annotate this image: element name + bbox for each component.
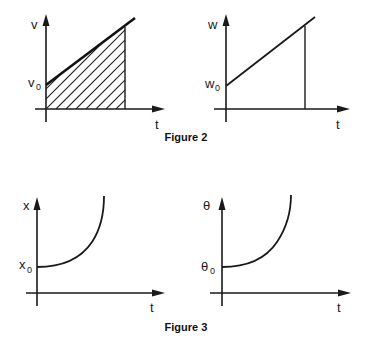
plot-v-vs-t: v v 0 t <box>0 14 196 132</box>
x-axis-arrow-icon <box>152 106 165 113</box>
y0-label-subscript: 0 <box>210 266 215 276</box>
y0-label: x <box>19 257 26 272</box>
y-axis-label: w <box>207 17 218 32</box>
y-axis-arrow-icon <box>219 197 226 210</box>
x-axis-label: t <box>150 300 154 315</box>
figure-2-caption: Figure 2 <box>165 131 208 143</box>
y0-label: θ <box>201 259 208 274</box>
y0-label: v <box>28 75 35 90</box>
plot-w-vs-t: w w 0 t <box>204 14 350 132</box>
y-axis-label: x <box>23 198 30 213</box>
y0-label-subscript: 0 <box>215 83 220 93</box>
y0-label-subscript: 0 <box>27 265 32 275</box>
y-axis-arrow-icon <box>223 14 230 26</box>
linear-line <box>226 17 315 86</box>
y-axis-label: v <box>31 17 38 32</box>
y0-label-subscript: 0 <box>36 82 41 92</box>
plot-x-vs-t: x x 0 t <box>19 196 165 315</box>
y0-label: w <box>204 76 215 91</box>
y-axis-arrow-icon <box>34 197 41 210</box>
x-axis-arrow-icon <box>337 106 350 113</box>
x-axis-label: t <box>155 117 159 132</box>
y-axis-arrow-icon <box>43 14 50 26</box>
x-axis-label: t <box>337 300 341 315</box>
exponential-curve <box>37 196 104 267</box>
x-axis-arrow-icon <box>338 290 351 297</box>
exponential-curve <box>222 195 291 267</box>
figure-3-caption: Figure 3 <box>165 321 208 333</box>
x-axis-label: t <box>336 117 340 132</box>
x-axis-arrow-icon <box>152 290 165 297</box>
diagram-canvas: v v 0 t w w 0 t Figure 2 x x 0 t θ <box>0 0 372 347</box>
y-axis-label: θ <box>203 198 210 213</box>
plot-theta-vs-t: θ θ 0 t <box>201 195 351 315</box>
hatched-area <box>0 29 196 109</box>
